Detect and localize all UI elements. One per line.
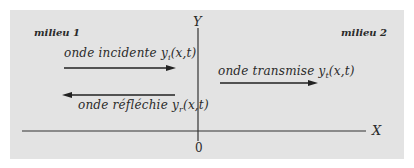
transmitted-arrow-icon [220,80,318,86]
origin-label: 0 [195,141,203,155]
reflected-wave-args: (x,t) [183,98,209,112]
incident-wave-symbol: y [161,46,168,60]
y-axis-label: Y [193,14,202,29]
reflected-wave-symbol: y [172,98,179,112]
diagram-lines [0,0,414,168]
medium-left-label: milieu 1 [34,27,80,38]
transmitted-wave-label: onde transmise yt(x,t) [218,64,355,80]
medium-right-label: milieu 2 [341,27,387,38]
reflected-wave-label: onde réfléchie yr(x,t) [78,98,209,114]
transmitted-wave-name: onde transmise [218,64,314,78]
x-axis-label: X [372,123,381,138]
reflected-wave-name: onde réfléchie [78,98,168,112]
incident-arrow-icon [64,65,176,71]
transmitted-wave-args: (x,t) [329,64,355,78]
incident-wave-label: onde incidente yi(x,t) [64,46,196,62]
incident-wave-args: (x,t) [171,46,197,60]
incident-wave-name: onde incidente [64,46,157,60]
